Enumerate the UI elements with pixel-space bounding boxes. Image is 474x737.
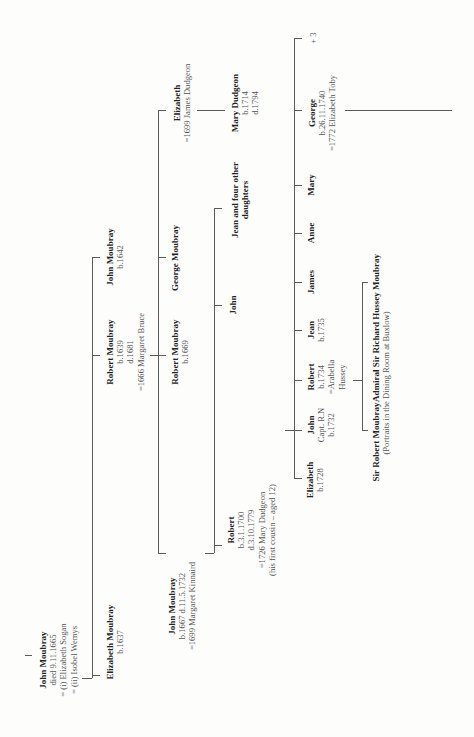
portraits-note-text: (Portraits in the Dining Room at Buxlow) <box>381 311 391 454</box>
person-name: Elizabeth <box>172 64 182 143</box>
person-name: George Moubray <box>170 225 180 291</box>
person-name: Mary <box>306 174 316 196</box>
person-name: Anne <box>306 223 316 244</box>
person-birth: b.3.1.1700 <box>237 484 247 576</box>
person-marriage-2: = (ii) Isobel Wemys <box>68 623 78 696</box>
family-tree-page: John Moubray died 9.11.1665 = (i) Elizab… <box>0 0 474 737</box>
person-birth: b.1642 <box>115 228 125 285</box>
person-note: (his first cousin – aged 12) <box>267 484 277 576</box>
person-birth: b.1728 <box>315 462 325 499</box>
person-birth: b.1669 <box>180 319 190 384</box>
person-name: Admiral Sir Richard Hussey Moubray <box>371 254 381 402</box>
person-name-line2: daughters <box>240 162 250 238</box>
person-birth: b.1735 <box>316 318 326 342</box>
person-name: Mary Dudgeon <box>230 74 240 132</box>
person-name: John Moubray <box>167 562 177 650</box>
person-name: John Moubray <box>105 228 115 285</box>
person-name: Jean <box>306 318 316 342</box>
person-name: John Moubray <box>38 623 48 696</box>
person-birth: b.1734 <box>316 360 326 394</box>
person-birth: b.1714 <box>240 74 250 132</box>
person-name: Robert Moubray <box>105 313 115 391</box>
person-marriage: =Arabella <box>326 360 336 394</box>
person-name: George <box>307 75 317 151</box>
person-name: Robert <box>306 360 316 394</box>
person-name: Robert <box>226 484 236 576</box>
person-death: d.1681 <box>125 313 135 391</box>
person-birth: b.1732 <box>326 408 336 443</box>
person-death: d.1794 <box>250 74 260 132</box>
person-name: Jean and four other <box>230 162 240 238</box>
person-birth: b.1637 <box>115 605 125 680</box>
person-marriage: =1726 Mary Dudgeon <box>257 484 267 576</box>
person-marriage: =1699 James Dudgeon <box>182 64 192 143</box>
person-name: John <box>228 295 238 314</box>
person-name: Elizabeth <box>305 462 315 499</box>
person-death: d.3.10.1779 <box>247 484 257 576</box>
person-marriage: =1699 Margaret Kinnaird <box>187 562 197 650</box>
person-birth: b.1639 <box>115 313 125 391</box>
person-marriage-1: = (i) Elizabeth Sogan <box>58 623 68 696</box>
person-name: John <box>306 408 316 443</box>
person-name: James <box>306 270 316 294</box>
person-name: Robert Moubray <box>170 319 180 384</box>
person-name: Elizabeth Moubray <box>105 605 115 680</box>
person-birth: b.26.11.1740 <box>317 75 327 151</box>
person-dates: b.1667 d.11.5.1732 <box>177 562 187 650</box>
person-marriage: =1666 Margaret Bruce <box>135 313 145 391</box>
person-rank: Capt. R.N <box>316 408 326 443</box>
person-name: Sir Robert Moubray <box>371 403 381 482</box>
person-death: died 9.11.1665 <box>48 623 58 696</box>
person-marriage-cont: Hussey <box>336 360 346 394</box>
person-marriage: =1772 Elizabeth Toby <box>327 75 337 151</box>
plus-three-label: + 3 <box>308 32 318 43</box>
